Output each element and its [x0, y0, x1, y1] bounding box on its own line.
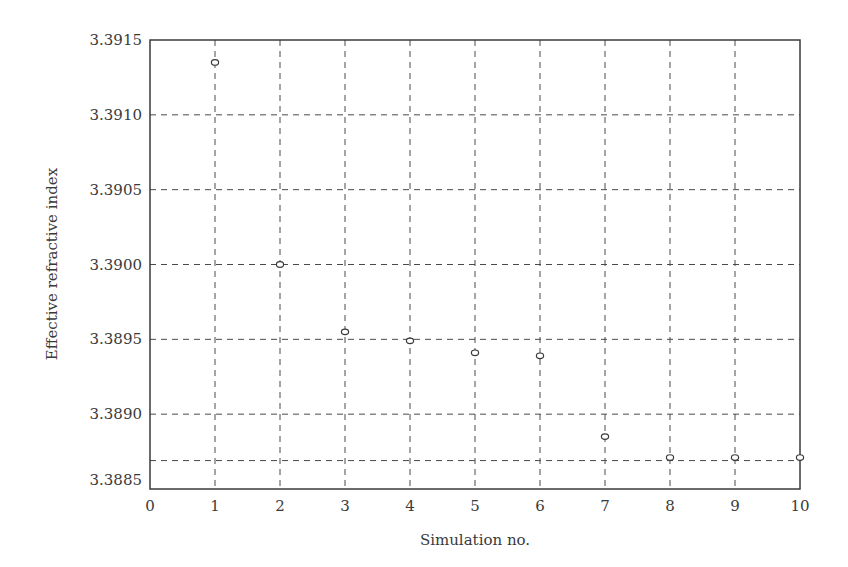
- x-tick-label: 10: [790, 497, 809, 515]
- y-tick-label: 3.3900: [90, 256, 143, 274]
- y-tick-label: 3.3885: [90, 471, 143, 489]
- data-point-marker: [471, 350, 478, 356]
- y-tick-label: 3.3905: [90, 181, 143, 199]
- y-tick-label: 3.3915: [90, 31, 143, 49]
- data-point-marker: [796, 455, 803, 461]
- data-point-marker: [731, 455, 738, 461]
- y-tick-label: 3.3910: [90, 106, 143, 124]
- scatter-chart: 012345678910 3.38853.38903.38953.39003.3…: [0, 0, 848, 567]
- data-point-marker: [276, 262, 283, 268]
- data-point-marker: [406, 338, 413, 344]
- data-point-marker: [341, 329, 348, 335]
- data-point-marker: [601, 434, 608, 440]
- x-tick-label: 8: [665, 497, 675, 515]
- x-tick-label: 0: [145, 497, 155, 515]
- data-point-marker: [536, 353, 543, 359]
- x-tick-label: 4: [405, 497, 415, 515]
- x-tick-label: 5: [470, 497, 480, 515]
- y-axis-ticks: 3.38853.38903.38953.39003.39053.39103.39…: [90, 31, 143, 489]
- data-point-marker: [211, 60, 218, 66]
- x-axis-title: Simulation no.: [420, 531, 530, 549]
- x-axis-ticks: 012345678910: [145, 497, 809, 515]
- x-tick-label: 2: [275, 497, 285, 515]
- x-tick-label: 7: [600, 497, 610, 515]
- data-points: [211, 60, 803, 461]
- x-tick-label: 6: [535, 497, 545, 515]
- y-tick-label: 3.3895: [90, 330, 143, 348]
- x-tick-label: 3: [340, 497, 350, 515]
- data-point-marker: [666, 455, 673, 461]
- x-tick-label: 1: [210, 497, 220, 515]
- x-tick-label: 9: [730, 497, 740, 515]
- y-axis-title: Effective refractive index: [43, 167, 61, 360]
- grid-lines: [150, 40, 800, 489]
- y-tick-label: 3.3890: [90, 405, 143, 423]
